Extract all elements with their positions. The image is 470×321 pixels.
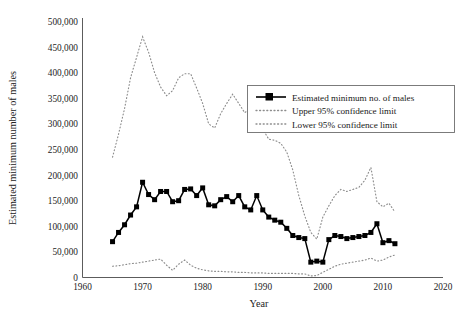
data-point-marker bbox=[386, 238, 391, 243]
data-point-marker bbox=[224, 194, 229, 199]
data-point-marker bbox=[140, 180, 145, 185]
data-point-marker bbox=[374, 221, 379, 226]
data-point-marker bbox=[248, 207, 253, 212]
y-tick-label: 400,000 bbox=[48, 68, 79, 78]
y-tick-label: 200,000 bbox=[48, 171, 79, 181]
data-point-marker bbox=[170, 199, 175, 204]
data-point-marker bbox=[260, 207, 265, 212]
data-point-marker bbox=[350, 235, 355, 240]
data-point-marker bbox=[290, 233, 295, 238]
data-point-marker bbox=[392, 241, 397, 246]
data-point-marker bbox=[326, 237, 331, 242]
data-point-marker bbox=[368, 230, 373, 235]
data-point-marker bbox=[194, 193, 199, 198]
legend-label-upper-limit: Upper 95% confidence limit bbox=[292, 106, 397, 116]
y-tick-label: 100,000 bbox=[48, 222, 79, 232]
chart-canvas: 050,000100,000150,000200,000250,000300,0… bbox=[0, 0, 470, 321]
chart-figure: 050,000100,000150,000200,000250,000300,0… bbox=[0, 0, 470, 321]
data-point-marker bbox=[122, 222, 127, 227]
data-point-marker bbox=[380, 240, 385, 245]
data-point-marker bbox=[212, 203, 217, 208]
x-tick-label: 2020 bbox=[434, 282, 453, 292]
data-point-marker bbox=[344, 236, 349, 241]
y-tick-label: 500,000 bbox=[48, 17, 79, 27]
legend-square-marker-icon bbox=[266, 93, 274, 101]
data-point-marker bbox=[146, 192, 151, 197]
data-point-marker bbox=[314, 259, 319, 264]
data-point-marker bbox=[272, 218, 277, 223]
x-tick-label: 1970 bbox=[133, 282, 152, 292]
data-point-marker bbox=[206, 202, 211, 207]
data-point-marker bbox=[266, 215, 271, 220]
legend-label-lower-limit: Lower 95% confidence limit bbox=[292, 120, 398, 130]
data-point-marker bbox=[176, 198, 181, 203]
x-tick-label: 2000 bbox=[314, 282, 333, 292]
data-point-marker bbox=[338, 234, 343, 239]
data-point-marker bbox=[110, 239, 115, 244]
data-point-marker bbox=[356, 234, 361, 239]
data-point-marker bbox=[218, 197, 223, 202]
chart-legend: Estimated minimum no. of males Upper 95%… bbox=[248, 86, 455, 133]
data-point-marker bbox=[236, 193, 241, 198]
legend-label-estimated-minimum: Estimated minimum no. of males bbox=[292, 93, 415, 103]
y-tick-label: 50,000 bbox=[52, 247, 78, 257]
data-point-marker bbox=[278, 220, 283, 225]
data-point-marker bbox=[320, 260, 325, 265]
data-point-marker bbox=[254, 193, 259, 198]
data-point-marker bbox=[284, 226, 289, 231]
data-point-marker bbox=[308, 260, 313, 265]
data-point-marker bbox=[302, 236, 307, 241]
x-axis-title: Year bbox=[250, 298, 269, 309]
data-point-marker bbox=[152, 197, 157, 202]
data-point-marker bbox=[362, 233, 367, 238]
data-point-marker bbox=[230, 199, 235, 204]
data-point-marker bbox=[296, 235, 301, 240]
data-point-marker bbox=[164, 189, 169, 194]
data-point-marker bbox=[332, 233, 337, 238]
y-tick-label: 150,000 bbox=[48, 196, 79, 206]
y-tick-label: 300,000 bbox=[48, 119, 79, 129]
data-point-marker bbox=[128, 213, 133, 218]
data-point-marker bbox=[200, 185, 205, 190]
x-tick-label: 1960 bbox=[73, 282, 92, 292]
x-tick-label: 1990 bbox=[253, 282, 272, 292]
data-point-marker bbox=[188, 186, 193, 191]
y-tick-label: 250,000 bbox=[48, 145, 79, 155]
data-point-marker bbox=[182, 187, 187, 192]
data-point-marker bbox=[116, 230, 121, 235]
x-tick-label: 2010 bbox=[374, 282, 393, 292]
y-axis-title: Estimated minimum number of males bbox=[7, 71, 18, 225]
data-point-marker bbox=[158, 189, 163, 194]
x-tick-label: 1980 bbox=[193, 282, 212, 292]
data-point-marker bbox=[134, 204, 139, 209]
y-tick-label: 450,000 bbox=[48, 43, 79, 53]
y-tick-label: 350,000 bbox=[48, 94, 79, 104]
data-point-marker bbox=[242, 204, 247, 209]
